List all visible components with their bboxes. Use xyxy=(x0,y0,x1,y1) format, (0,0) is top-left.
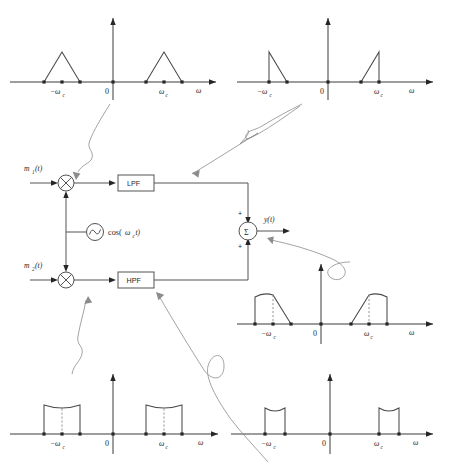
output-label: y(t) xyxy=(263,215,275,224)
xtick-pos-wc: ω xyxy=(374,87,380,96)
xtick-neg-wc-sub: c xyxy=(274,334,277,340)
xtick-pos-wc-sub: c xyxy=(166,444,169,450)
arrow-input-top xyxy=(51,180,58,185)
xtick-zero: 0 xyxy=(313,329,317,338)
axis-label-omega: ω xyxy=(196,86,202,95)
oscillator-label-post: t) xyxy=(136,228,141,237)
spectrum-mid-right: −ω c 0 ω c ω xyxy=(237,262,453,362)
xtick-pos-wc-sub: c xyxy=(381,444,384,450)
spectrum-top-right: −ω c 0 ω c ω xyxy=(237,0,453,112)
xtick-pos-wc: ω xyxy=(364,329,370,338)
spectrum-bottom-left: −ω c 0 ω c ω xyxy=(0,362,232,472)
xtick-pos-wc: ω xyxy=(159,87,165,96)
xtick-neg-wc: −ω xyxy=(257,87,268,96)
xtick-neg-wc-sub: c xyxy=(270,92,273,98)
axis-label-omega: ω xyxy=(413,438,419,447)
axis-label-omega: ω xyxy=(409,328,415,337)
xtick-zero: 0 xyxy=(105,87,109,96)
arrow-to-lpf xyxy=(109,180,116,185)
axis-label-omega: ω xyxy=(409,86,415,95)
spectrum-bottom-right: −ω c 0 ω c ω xyxy=(231,362,453,472)
figure-canvas: −ω c 0 ω c ω −ω c 0 ω c ω xyxy=(0,0,453,472)
xtick-neg-wc-sub: c xyxy=(63,92,66,98)
arrow-output xyxy=(283,228,290,233)
xtick-zero: 0 xyxy=(322,439,326,448)
xtick-neg-wc: −ω xyxy=(261,329,272,338)
xtick-neg-wc: −ω xyxy=(50,87,61,96)
arrow-input-bottom xyxy=(51,277,58,282)
input-bottom-label: m xyxy=(24,261,30,270)
xtick-neg-wc: −ω xyxy=(261,439,272,448)
summer-sign-bottom: + xyxy=(238,243,242,250)
xtick-pos-wc: ω xyxy=(374,439,380,448)
arrow-osc-down xyxy=(63,265,68,272)
input-bottom-suffix: (t) xyxy=(35,261,43,270)
summer-sign-top: + xyxy=(238,210,242,217)
oscillator-label-pre: cos( xyxy=(108,228,122,237)
xtick-pos-wc-sub: c xyxy=(381,92,384,98)
oscillator-label-omega: ω xyxy=(125,228,131,237)
xtick-zero: 0 xyxy=(105,439,109,448)
spectrum-top-left: −ω c 0 ω c ω xyxy=(0,0,236,112)
input-top-label: m xyxy=(24,164,30,173)
xtick-pos-wc-sub: c xyxy=(166,92,169,98)
xtick-pos-wc-sub: c xyxy=(371,334,374,340)
summer-symbol: Σ xyxy=(244,228,249,237)
xtick-neg-wc-sub: c xyxy=(63,444,66,450)
xtick-neg-wc-sub: c xyxy=(274,444,277,450)
arrow-to-hpf xyxy=(109,277,116,282)
xtick-zero: 0 xyxy=(320,87,324,96)
input-top-suffix: (t) xyxy=(35,164,43,173)
xtick-pos-wc: ω xyxy=(159,439,165,448)
xtick-neg-wc: −ω xyxy=(50,439,61,448)
filter-lpf-label: LPF xyxy=(127,179,141,188)
filter-hpf-label: HPF xyxy=(127,276,142,285)
axis-label-omega: ω xyxy=(198,438,204,447)
arrow-osc-up xyxy=(63,191,68,198)
